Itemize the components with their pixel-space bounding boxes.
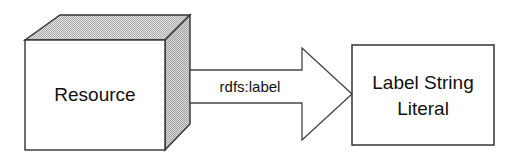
diagram-svg: Resource rdfs:label Label String Literal (0, 0, 516, 161)
diagram-canvas: Resource rdfs:label Label String Literal (0, 0, 516, 161)
resource-box-top-face (25, 15, 190, 40)
edge-rdfs-label[interactable]: rdfs:label (190, 48, 352, 140)
label-literal-line-1: Label String (372, 72, 473, 93)
node-resource[interactable]: Resource (25, 15, 190, 150)
resource-box-label: Resource (54, 84, 135, 105)
label-literal-box (352, 45, 494, 145)
node-label-literal[interactable]: Label String Literal (352, 45, 494, 145)
rdfs-label-edge-label: rdfs:label (220, 78, 281, 95)
label-literal-line-2: Literal (397, 98, 449, 119)
